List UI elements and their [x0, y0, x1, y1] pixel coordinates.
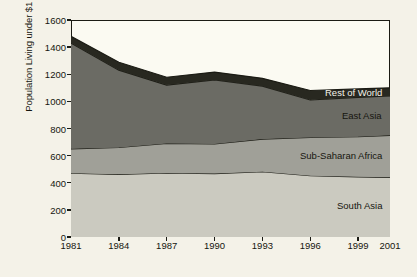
x-tick-label: 1981: [60, 240, 81, 251]
y-tick-label: 600: [32, 150, 66, 161]
y-tick-label: 1000: [32, 96, 66, 107]
y-tick-mark: [67, 182, 71, 183]
y-tick-label: 1600: [32, 15, 66, 26]
x-tick-label: 1996: [300, 240, 321, 251]
y-tick-label: 1200: [32, 69, 66, 80]
x-tick-label: 1999: [348, 240, 369, 251]
y-axis-tick-labels: 02004006008001000120014001600: [28, 0, 66, 277]
series-label-rest-of-world: Rest of World: [325, 87, 382, 98]
x-tick-label: 1987: [156, 240, 177, 251]
x-tick-label: 1990: [204, 240, 225, 251]
x-tick-mark: [262, 237, 263, 241]
x-tick-mark: [118, 237, 119, 241]
y-tick-mark: [67, 155, 71, 156]
y-tick-mark: [67, 209, 71, 210]
x-tick-mark: [357, 237, 358, 241]
y-tick-mark: [67, 74, 71, 75]
series-label-east-asia: East Asia: [342, 110, 382, 121]
y-tick-label: 800: [32, 123, 66, 134]
y-tick-mark: [67, 101, 71, 102]
y-tick-label: 200: [32, 204, 66, 215]
x-tick-mark: [310, 237, 311, 241]
chart-figure: Population Living under $1 per Day (mill…: [0, 0, 417, 277]
x-tick-label: 2001: [379, 240, 400, 251]
x-tick-label: 1984: [108, 240, 129, 251]
y-tick-label: 1400: [32, 42, 66, 53]
series-label-south-asia: South Asia: [337, 200, 382, 211]
series-label-sub-saharan-africa: Sub-Saharan Africa: [300, 150, 382, 161]
y-tick-mark: [67, 46, 71, 47]
y-tick-label: 400: [32, 177, 66, 188]
x-tick-mark: [214, 237, 215, 241]
y-tick-mark: [67, 19, 71, 20]
y-axis-label-container: Population Living under $1 per Day (mill…: [0, 0, 30, 260]
y-tick-mark: [67, 236, 71, 237]
y-tick-mark: [67, 128, 71, 129]
x-tick-mark: [166, 237, 167, 241]
x-tick-label: 1993: [252, 240, 273, 251]
